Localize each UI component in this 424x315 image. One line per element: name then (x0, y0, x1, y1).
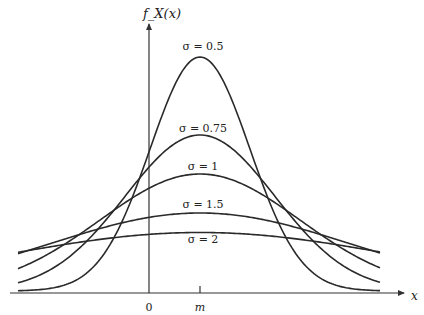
sigma-label-1: σ = 1 (188, 160, 219, 173)
sigma-label-1-5: σ = 1.5 (182, 198, 223, 211)
mean-tick-label: m (195, 301, 205, 314)
x-axis-label: x (411, 289, 418, 303)
sigma-label-2: σ = 2 (188, 233, 219, 246)
normal-distribution-chart: f_X(x) x 0 m σ = 0.5 σ = 0.75 σ = 1 σ = … (0, 0, 424, 315)
density-curves (18, 57, 380, 291)
sigma-label-0-75: σ = 0.75 (179, 122, 227, 135)
origin-tick-label: 0 (146, 301, 153, 314)
sigma-label-0-5: σ = 0.5 (182, 40, 223, 53)
y-axis-label: f_X(x) (142, 6, 181, 21)
